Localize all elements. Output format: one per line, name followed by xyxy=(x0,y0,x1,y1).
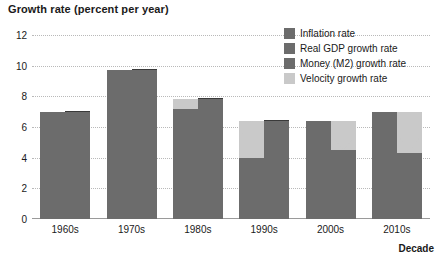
bar-segment-inflation xyxy=(397,188,422,219)
bar-segment-inflation xyxy=(65,152,90,219)
bar-segment-gdp xyxy=(331,149,356,185)
bar-inflation-gdp[interactable] xyxy=(198,35,223,219)
bar-segment-money xyxy=(372,112,397,219)
gridline xyxy=(32,158,430,159)
gridline xyxy=(32,188,430,189)
velocity-up-arrow-icon xyxy=(242,121,261,158)
bar-group: 1970s xyxy=(107,35,157,219)
y-axis-tick-label: 0 xyxy=(21,214,27,225)
y-axis-tick-label: 6 xyxy=(21,122,27,133)
legend-label: Velocity growth rate xyxy=(300,73,387,84)
legend-item[interactable]: Real GDP growth rate xyxy=(284,41,406,55)
x-axis-tick-label: 2000s xyxy=(317,224,344,235)
bar-segment-gdp xyxy=(198,98,223,173)
bar-group: 1960s xyxy=(40,35,90,219)
bar-segment-gdp xyxy=(132,69,157,170)
x-axis-tick-label: 1970s xyxy=(118,224,145,235)
x-axis-line xyxy=(32,218,430,219)
velocity-down-arrow-icon xyxy=(400,112,419,153)
legend-swatch xyxy=(284,73,295,84)
bar-inflation-gdp[interactable] xyxy=(65,35,90,219)
bar-money[interactable] xyxy=(239,35,264,219)
bar-segment-money xyxy=(173,109,198,219)
bar-segment-inflation xyxy=(132,170,157,219)
bar-segment-gdp xyxy=(264,120,289,172)
bar-group: 1980s xyxy=(173,35,223,219)
legend-swatch xyxy=(284,43,295,54)
bar-money[interactable] xyxy=(107,35,132,219)
chart-title: Growth rate (percent per year) xyxy=(8,3,169,15)
x-axis-tick-label: 1960s xyxy=(52,224,79,235)
y-axis-tick-label: 10 xyxy=(16,60,27,71)
y-axis-tick-label: 2 xyxy=(21,183,27,194)
bar-segment-money xyxy=(107,70,132,219)
bar-inflation-gdp[interactable] xyxy=(132,35,157,219)
x-axis-tick-label: 1990s xyxy=(251,224,278,235)
legend-swatch xyxy=(284,58,295,69)
legend-label: Real GDP growth rate xyxy=(300,43,398,54)
legend-item[interactable]: Velocity growth rate xyxy=(284,71,406,85)
bar-segment-money xyxy=(306,121,331,219)
gridline xyxy=(32,127,430,128)
x-axis-title: Decade xyxy=(398,243,434,254)
gridline xyxy=(32,96,430,97)
legend-item[interactable]: Inflation rate xyxy=(284,26,406,40)
bar-segment-gdp xyxy=(65,111,90,152)
y-axis-tick-label: 12 xyxy=(16,30,27,41)
legend-label: Inflation rate xyxy=(300,28,355,39)
bar-segment-money xyxy=(239,158,264,219)
bar-money[interactable] xyxy=(40,35,65,219)
bar-group: 1990s xyxy=(239,35,289,219)
legend-label: Money (M2) growth rate xyxy=(300,58,406,69)
chart-legend: Inflation rateReal GDP growth rateMoney … xyxy=(284,26,406,86)
bar-segment-inflation xyxy=(198,173,223,219)
velocity-down-arrow-icon xyxy=(334,121,353,150)
x-axis-tick-label: 2010s xyxy=(383,224,410,235)
legend-item[interactable]: Money (M2) growth rate xyxy=(284,56,406,70)
bar-segment-velocity xyxy=(173,99,198,108)
bar-segment-inflation xyxy=(264,171,289,219)
y-axis-tick-label: 4 xyxy=(21,152,27,163)
bar-segment-money xyxy=(40,112,65,219)
chart-root: Growth rate (percent per year) 024681012… xyxy=(0,0,439,267)
bar-segment-inflation xyxy=(331,185,356,219)
bar-money[interactable] xyxy=(173,35,198,219)
bar-segment-gdp xyxy=(397,152,422,188)
legend-swatch xyxy=(284,28,295,39)
y-axis-tick-label: 8 xyxy=(21,91,27,102)
x-axis-tick-label: 1980s xyxy=(184,224,211,235)
